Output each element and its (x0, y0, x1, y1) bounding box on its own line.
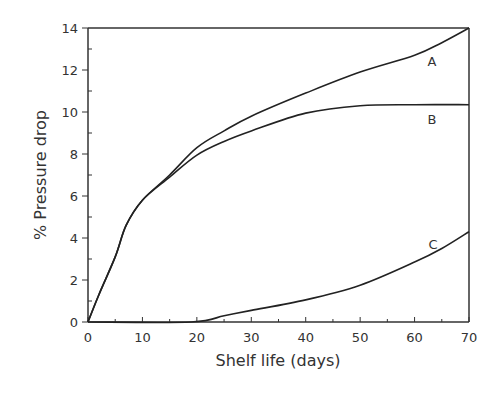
curve-label-a: A (428, 54, 437, 69)
plot-frame (88, 28, 469, 322)
x-tick-label: 0 (84, 330, 92, 345)
data-curves (88, 28, 469, 322)
x-axis-title: Shelf life (days) (215, 351, 340, 370)
x-tick-label: 20 (189, 330, 206, 345)
x-tick-label: 50 (352, 330, 369, 345)
y-tick-label: 8 (70, 147, 78, 162)
curve-c (88, 232, 469, 323)
curve-label-b: B (428, 112, 437, 127)
curve-b (88, 105, 469, 322)
x-tick-label: 60 (406, 330, 423, 345)
y-tick-label: 4 (70, 231, 78, 246)
x-tick-label: 70 (461, 330, 478, 345)
pressure-drop-chart: 010203040506070 02468101214 A B C Shelf … (0, 0, 501, 394)
x-tick-label: 30 (243, 330, 260, 345)
x-tick-label: 10 (134, 330, 151, 345)
curve-label-c: C (428, 237, 437, 252)
y-tick-label: 14 (61, 21, 78, 36)
x-axis-ticks: 010203040506070 (84, 317, 477, 345)
y-axis-title: % Pressure drop (31, 110, 50, 240)
x-tick-label: 40 (297, 330, 314, 345)
y-tick-label: 12 (61, 63, 78, 78)
y-tick-label: 2 (70, 273, 78, 288)
curve-a (88, 28, 469, 322)
y-tick-label: 6 (70, 189, 78, 204)
y-tick-label: 0 (70, 315, 78, 330)
y-tick-label: 10 (61, 105, 78, 120)
